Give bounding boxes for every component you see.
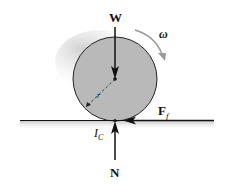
free-body-diagram: W N Ff ω r IC [0,0,230,188]
omega-arrow-head [158,53,166,61]
contact-point [114,119,117,122]
friction-label-main: F [158,103,166,118]
radius-label: r [97,92,100,100]
friction-label: Ff [158,104,168,121]
ic-label: IC [94,127,103,142]
diagram-graphics [0,0,230,188]
weight-label: W [109,11,122,24]
omega-label: ω [159,28,168,40]
ic-label-sub: C [98,133,103,142]
friction-label-sub: f [166,111,169,121]
normal-label: N [110,166,119,179]
